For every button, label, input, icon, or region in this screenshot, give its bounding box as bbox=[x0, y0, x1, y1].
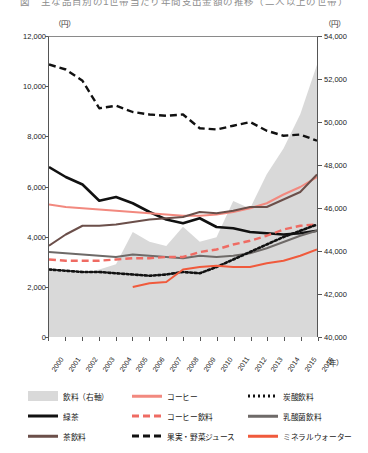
x-tick-2001: 2001 bbox=[67, 356, 82, 373]
x-tick-2003: 2003 bbox=[101, 356, 116, 373]
x-tickmark-2009 bbox=[200, 337, 201, 341]
x-axis-unit: （年） bbox=[322, 357, 343, 368]
legend-item[interactable]: 炭酸飲料 bbox=[248, 391, 358, 402]
x-tickmark-2006 bbox=[149, 337, 150, 341]
series-line bbox=[49, 65, 317, 141]
legend-item[interactable]: 茶飲料 bbox=[28, 431, 132, 442]
x-tickmark-2012 bbox=[251, 337, 252, 341]
chart-legend: 飲料（右軸）コーヒー炭酸飲料緑茶コーヒー飲料乳酸菌飲料茶飲料果実・野菜ジュースミ… bbox=[28, 386, 348, 446]
right-tick-40000: 40,000 bbox=[324, 333, 347, 342]
right-tickmark-52000 bbox=[318, 79, 322, 80]
left-tick-2000: 2,000 bbox=[0, 282, 46, 291]
x-tickmark-2002 bbox=[82, 337, 83, 341]
x-tick-2014: 2014 bbox=[286, 356, 301, 373]
left-axis-unit: （円） bbox=[54, 18, 75, 29]
legend-item-label: 乳酸菌飲料 bbox=[283, 411, 321, 422]
legend-item-label: 果実・野菜ジュース bbox=[167, 431, 235, 442]
right-tickmark-44000 bbox=[318, 251, 322, 252]
left-tick-12000: 12,000 bbox=[0, 32, 46, 41]
left-tick-4000: 4,000 bbox=[0, 232, 46, 241]
legend-item-label: 炭酸飲料 bbox=[283, 391, 314, 402]
x-tick-2007: 2007 bbox=[168, 356, 183, 373]
x-tick-2005: 2005 bbox=[135, 356, 150, 373]
x-tickmark-2013 bbox=[267, 337, 268, 341]
x-tick-2006: 2006 bbox=[151, 356, 166, 373]
x-tick-2011: 2011 bbox=[236, 355, 250, 371]
legend-swatch-icon bbox=[248, 431, 278, 441]
legend-swatch-icon bbox=[132, 411, 162, 421]
x-tick-2012: 2012 bbox=[253, 356, 268, 373]
right-tick-44000: 44,000 bbox=[324, 247, 347, 256]
x-tickmark-2014 bbox=[284, 337, 285, 341]
left-tick-10000: 10,000 bbox=[0, 82, 46, 91]
legend-swatch-icon bbox=[28, 411, 58, 421]
x-tickmark-2015 bbox=[301, 337, 302, 341]
x-tickmark-2008 bbox=[183, 337, 184, 341]
right-tick-52000: 52,000 bbox=[324, 75, 347, 84]
x-tick-2009: 2009 bbox=[202, 356, 217, 373]
legend-item-label: ミネラルウォーター bbox=[283, 431, 352, 442]
legend-item[interactable]: 果実・野菜ジュース bbox=[132, 431, 248, 442]
legend-item-label: 茶飲料 bbox=[63, 431, 86, 442]
plot-area bbox=[48, 36, 318, 337]
right-tick-48000: 48,000 bbox=[324, 161, 347, 170]
x-tick-2013: 2013 bbox=[270, 356, 285, 373]
right-tickmark-54000 bbox=[318, 36, 322, 37]
right-tick-42000: 42,000 bbox=[324, 290, 347, 299]
right-tickmark-50000 bbox=[318, 122, 322, 123]
series-container bbox=[49, 37, 317, 337]
chart-title-text: 図 主な品目別の1世帯当たり年間支出金額の推移（二人以上の世帯） bbox=[0, 0, 368, 7]
x-axis-tick-labels: 2000200120022003200420052006200720082009… bbox=[48, 337, 318, 381]
legend-item-label: コーヒー飲料 bbox=[167, 411, 213, 422]
x-tickmark-2003 bbox=[99, 337, 100, 341]
legend-swatch-icon bbox=[248, 391, 278, 401]
left-tick-0: 0 bbox=[0, 333, 46, 342]
legend-item[interactable]: 緑茶 bbox=[28, 411, 132, 422]
legend-swatch-icon bbox=[28, 391, 58, 401]
x-tickmark-2001 bbox=[65, 337, 66, 341]
x-tickmark-2004 bbox=[116, 337, 117, 341]
legend-item-label: 緑茶 bbox=[63, 411, 78, 422]
x-tickmark-2007 bbox=[166, 337, 167, 341]
x-tick-2004: 2004 bbox=[118, 356, 133, 373]
legend-item[interactable]: ミネラルウォーター bbox=[248, 431, 358, 442]
series-area-beverage bbox=[49, 65, 317, 337]
x-tickmark-2011 bbox=[234, 337, 235, 341]
right-tickmark-48000 bbox=[318, 165, 322, 166]
x-tickmark-2000 bbox=[48, 337, 49, 341]
legend-item[interactable]: コーヒー bbox=[132, 391, 248, 402]
left-tick-8000: 8,000 bbox=[0, 132, 46, 141]
x-tick-2000: 2000 bbox=[50, 356, 65, 373]
right-tick-50000: 50,000 bbox=[324, 118, 347, 127]
legend-swatch-icon bbox=[248, 411, 278, 421]
x-tickmark-2005 bbox=[132, 337, 133, 341]
left-tick-6000: 6,000 bbox=[0, 182, 46, 191]
right-tick-54000: 54,000 bbox=[324, 32, 347, 41]
legend-item[interactable]: 乳酸菌飲料 bbox=[248, 411, 358, 422]
x-tick-2008: 2008 bbox=[185, 356, 200, 373]
legend-swatch-icon bbox=[28, 431, 58, 441]
x-tickmark-2010 bbox=[217, 337, 218, 341]
right-tickmark-42000 bbox=[318, 294, 322, 295]
series-svg bbox=[49, 37, 317, 337]
legend-swatch-icon bbox=[132, 431, 162, 441]
legend-item-label: 飲料（右軸） bbox=[63, 391, 109, 402]
legend-swatch-icon bbox=[132, 391, 162, 401]
legend-item-label: コーヒー bbox=[167, 391, 198, 402]
x-tick-2015: 2015 bbox=[303, 356, 318, 373]
right-tick-46000: 46,000 bbox=[324, 204, 347, 213]
x-tick-2010: 2010 bbox=[219, 356, 234, 373]
legend-item[interactable]: 飲料（右軸） bbox=[28, 391, 132, 402]
legend-item[interactable]: コーヒー飲料 bbox=[132, 411, 248, 422]
chart-page: 図 主な品目別の1世帯当たり年間支出金額の推移（二人以上の世帯） （円） （円）… bbox=[0, 0, 368, 453]
x-tickmark-2016 bbox=[318, 337, 319, 341]
x-tick-2002: 2002 bbox=[84, 356, 99, 373]
right-axis-unit: （円） bbox=[324, 18, 345, 29]
chart-title: 図 主な品目別の1世帯当たり年間支出金額の推移（二人以上の世帯） bbox=[0, 0, 368, 8]
right-tickmark-46000 bbox=[318, 208, 322, 209]
